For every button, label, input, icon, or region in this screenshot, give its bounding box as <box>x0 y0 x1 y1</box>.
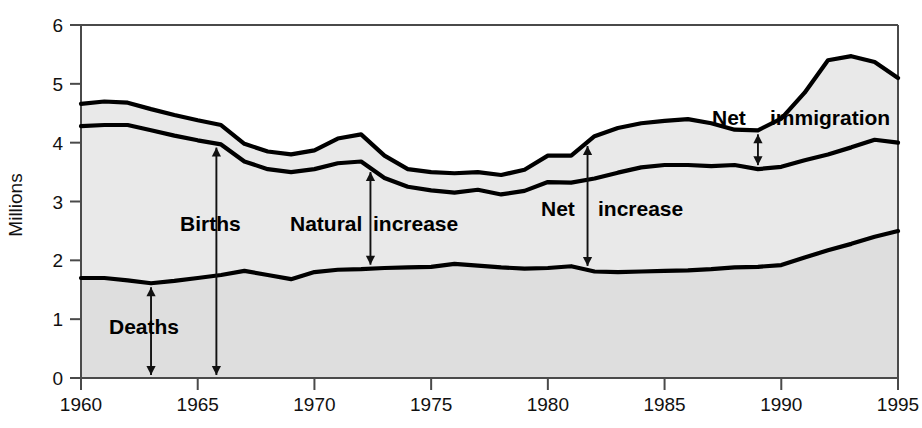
x-tick-label: 1995 <box>877 394 919 415</box>
births-label: Births <box>180 212 241 235</box>
net-increase-label-right: increase <box>598 197 683 220</box>
y-tick-label: 2 <box>52 250 63 271</box>
x-tick-label: 1975 <box>410 394 452 415</box>
y-tick-labels: 0123456 <box>52 15 63 389</box>
x-tick-labels: 19601965197019751980198519901995 <box>60 394 919 415</box>
net-increase-label-left: Net <box>541 197 575 220</box>
x-tick-label: 1990 <box>760 394 802 415</box>
net-immigration-label-right: immigration <box>770 106 890 129</box>
population-components-chart: 0123456 19601965197019751980198519901995… <box>0 0 922 428</box>
y-tick-label: 6 <box>52 15 63 36</box>
y-tick-label: 4 <box>52 133 63 154</box>
x-tick-label: 1965 <box>177 394 219 415</box>
y-tick-marks <box>70 25 81 378</box>
x-tick-label: 1960 <box>60 394 102 415</box>
y-tick-label: 1 <box>52 309 63 330</box>
chart-canvas: 0123456 19601965197019751980198519901995… <box>0 0 922 428</box>
x-tick-marks <box>81 378 898 390</box>
y-tick-label: 0 <box>52 368 63 389</box>
x-tick-label: 1985 <box>643 394 685 415</box>
x-tick-label: 1970 <box>293 394 335 415</box>
x-tick-label: 1980 <box>527 394 569 415</box>
deaths-label: Deaths <box>109 315 179 338</box>
net-immigration-label-left: Net <box>712 106 746 129</box>
natural-increase-label-left: Natural <box>290 212 362 235</box>
y-tick-label: 5 <box>52 74 63 95</box>
y-axis-title: Millions <box>5 173 26 236</box>
y-tick-label: 3 <box>52 192 63 213</box>
natural-increase-label-right: increase <box>373 212 458 235</box>
